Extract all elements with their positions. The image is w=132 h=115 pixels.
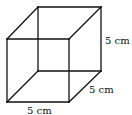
cube-diagram: 5 cm 5 cm 5 cm — [0, 0, 132, 115]
depth-label: 5 cm — [89, 84, 114, 95]
depth-edges — [7, 7, 101, 102]
height-label: 5 cm — [105, 35, 130, 46]
bottom-left-depth-edge — [7, 71, 38, 102]
top-left-depth-edge — [7, 7, 38, 39]
width-label: 5 cm — [27, 105, 52, 115]
top-right-depth-edge — [69, 7, 101, 39]
